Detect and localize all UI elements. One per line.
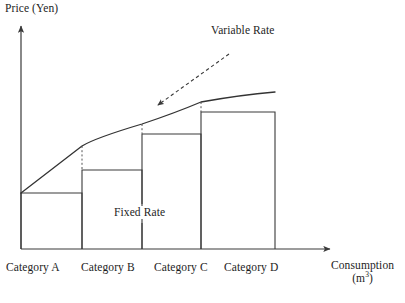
- variable-rate-curve: [21, 92, 275, 193]
- x-axis-label-text: Consumption: [331, 259, 394, 271]
- fixed-rate-annotation: Fixed Rate: [112, 206, 167, 219]
- x-axis-unit: (m3): [331, 272, 394, 285]
- variable-rate-arrow: [158, 54, 229, 105]
- bar-category-d: [201, 112, 275, 249]
- rate-structure-chart: Price (Yen) Consumption (m3) Variable Ra…: [0, 0, 405, 303]
- category-label-c: Category C: [154, 261, 208, 274]
- y-axis-label: Price (Yen): [5, 2, 58, 15]
- bar-category-c: [142, 134, 201, 249]
- x-axis-label: Consumption (m3): [331, 259, 394, 285]
- x-axis-unit-prefix: (m: [352, 272, 365, 284]
- chart-canvas: [0, 0, 405, 303]
- category-label-b: Category B: [81, 261, 135, 274]
- category-label-d: Category D: [224, 261, 278, 274]
- variable-rate-annotation: Variable Rate: [211, 24, 275, 37]
- bar-category-a: [21, 193, 82, 249]
- category-label-a: Category A: [6, 261, 60, 274]
- x-axis-unit-suffix: ): [369, 272, 373, 284]
